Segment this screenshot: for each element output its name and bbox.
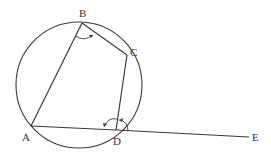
point-label-B: B bbox=[79, 7, 86, 19]
segment-AB bbox=[31, 23, 82, 126]
cyclic-quadrilateral-diagram: A B C D E bbox=[0, 0, 271, 154]
angle-ADC-arc bbox=[104, 119, 117, 127]
point-label-C: C bbox=[130, 46, 137, 58]
segment-AD bbox=[31, 126, 116, 130]
point-label-D: D bbox=[113, 135, 121, 147]
point-label-E: E bbox=[252, 131, 259, 143]
point-label-A: A bbox=[22, 131, 30, 143]
segment-DE bbox=[116, 130, 249, 137]
arrowhead-D-exterior-icon bbox=[119, 118, 123, 122]
arrowhead-D-interior-icon bbox=[103, 123, 107, 127]
